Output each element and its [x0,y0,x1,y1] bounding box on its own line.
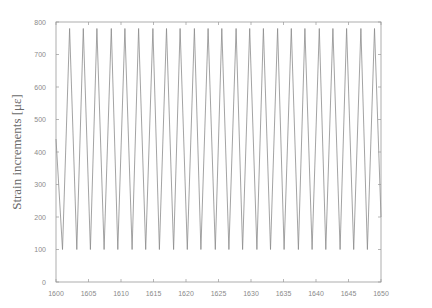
y-axis-label: Strain increments [με] [9,94,24,210]
series-line-strain [56,29,381,250]
x-tick-label: 1630 [243,290,259,297]
y-tick-label: 600 [34,84,46,91]
y-tick-label: 300 [34,181,46,188]
strain-chart: 1600160516101615162016251630163516401645… [0,0,432,308]
y-tick-label: 400 [34,149,46,156]
y-tick-label: 100 [34,246,46,253]
x-tick-label: 1635 [276,290,292,297]
x-tick-label: 1640 [308,290,324,297]
x-tick-label: 1605 [81,290,97,297]
x-tick-label: 1650 [373,290,389,297]
x-tick-label: 1625 [211,290,227,297]
x-tick-label: 1645 [341,290,357,297]
y-tick-label: 700 [34,51,46,58]
y-tick-label: 800 [34,19,46,26]
plot-area [56,29,381,250]
x-tick-label: 1600 [48,290,64,297]
x-axis: 1600160516101615162016251630163516401645… [48,22,389,297]
y-tick-label: 200 [34,214,46,221]
x-tick-label: 1610 [113,290,129,297]
y-tick-label: 0 [42,279,46,286]
x-tick-label: 1620 [178,290,194,297]
y-tick-label: 500 [34,116,46,123]
x-tick-label: 1615 [146,290,162,297]
